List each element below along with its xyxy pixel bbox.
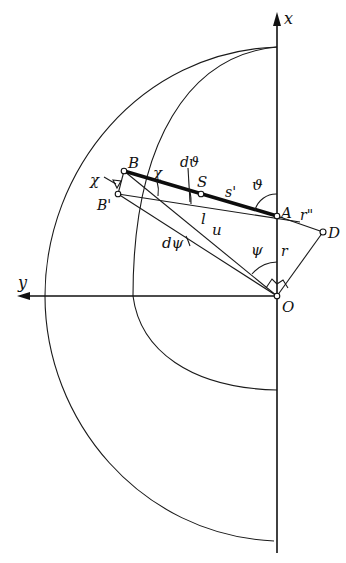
line-B-Bprime <box>118 171 124 194</box>
label-Bprime: B' <box>96 197 111 213</box>
y-axis-arrow-icon <box>17 292 30 300</box>
label-D: D <box>327 224 340 242</box>
x-axis-arrow-icon <box>273 12 281 26</box>
y-axis-label: y <box>17 273 28 292</box>
point-B <box>121 168 127 174</box>
dpsi-arc <box>186 236 190 246</box>
line-D-O <box>277 232 323 296</box>
point-S <box>198 191 204 197</box>
label-psi: ψ <box>251 241 263 259</box>
right-angle-mark-left <box>266 279 277 288</box>
chi-arc-B <box>157 181 158 196</box>
label-l: l <box>201 210 206 228</box>
label-O: O <box>282 298 294 316</box>
psi-arc <box>252 262 277 274</box>
label-r-double-prime: r" <box>300 207 313 223</box>
dtheta-leader <box>188 168 190 202</box>
point-Bprime <box>115 191 121 197</box>
theta-arc <box>255 194 277 210</box>
label-S: S <box>197 173 207 191</box>
point-O <box>274 293 280 299</box>
label-chi-outer: χ <box>89 171 100 189</box>
label-dpsi: dψ <box>162 234 184 252</box>
point-D <box>320 229 326 235</box>
kinematics-diagram: x y B B' S A D O χ χ dϑ ϑ ψ dψ s' l u r … <box>0 0 346 563</box>
label-s-prime: s' <box>225 184 236 200</box>
label-r: r <box>281 243 289 259</box>
line-Bprime-A-l <box>118 194 300 222</box>
right-angle-mark-right <box>277 280 288 288</box>
label-theta: ϑ <box>252 176 263 194</box>
label-u: u <box>212 221 222 239</box>
label-chi-B: χ <box>152 164 163 182</box>
label-B: B <box>127 154 139 172</box>
x-axis-label: x <box>284 9 293 28</box>
label-A: A <box>279 204 292 222</box>
point-A <box>274 213 280 219</box>
outer-curve <box>45 47 277 541</box>
label-dtheta: dϑ <box>180 154 199 170</box>
